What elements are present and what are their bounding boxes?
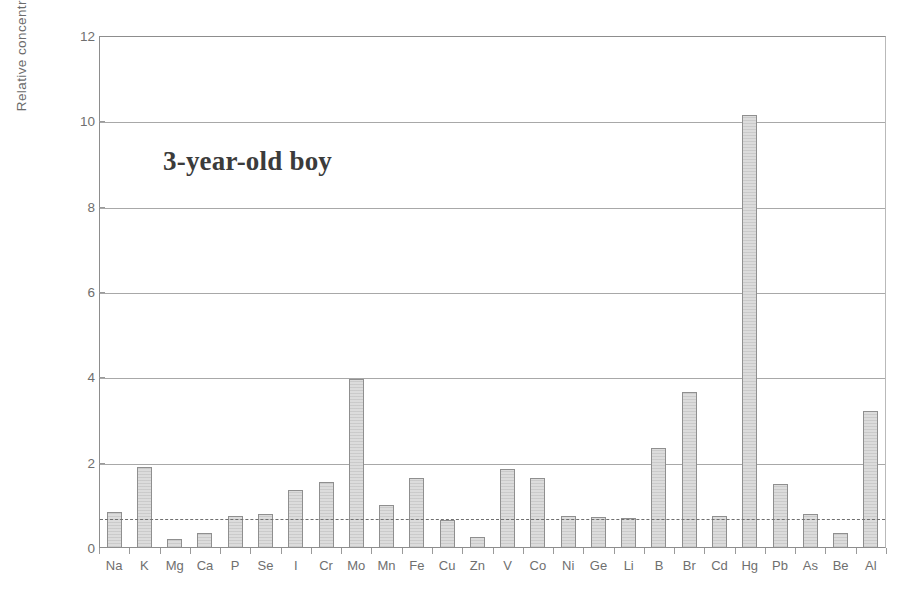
y-axis-tick-labels: 024681012 bbox=[55, 36, 95, 548]
x-tick-label-ca: Ca bbox=[197, 558, 214, 573]
x-tick-label-mn: Mn bbox=[378, 558, 396, 573]
x-tick-label-zn: Zn bbox=[470, 558, 485, 573]
bar-mo bbox=[349, 379, 364, 548]
x-tick-label-ge: Ge bbox=[590, 558, 607, 573]
x-tick-mark-6 bbox=[281, 548, 282, 554]
x-tick-label-cr: Cr bbox=[319, 558, 333, 573]
bar-mg bbox=[167, 539, 182, 548]
x-tick-mark-1 bbox=[129, 548, 130, 554]
bar-li bbox=[621, 518, 636, 548]
x-tick-label-co: Co bbox=[530, 558, 547, 573]
y-tick-label-8: 8 bbox=[61, 199, 95, 214]
y-tick-label-2: 2 bbox=[61, 455, 95, 470]
bar-cr bbox=[319, 482, 334, 548]
y-tick-mark-8 bbox=[99, 207, 105, 208]
x-tick-label-hg: Hg bbox=[741, 558, 758, 573]
bar-series bbox=[99, 36, 886, 548]
chart-annotation: 3-year-old boy bbox=[163, 146, 332, 177]
x-tick-mark-19 bbox=[674, 548, 675, 554]
x-tick-mark-26 bbox=[886, 548, 887, 554]
x-tick-mark-25 bbox=[856, 548, 857, 554]
x-tick-label-na: Na bbox=[106, 558, 123, 573]
x-tick-label-k: K bbox=[140, 558, 149, 573]
x-tick-label-i: I bbox=[294, 558, 298, 573]
y-tick-label-6: 6 bbox=[61, 285, 95, 300]
x-tick-label-as: As bbox=[803, 558, 818, 573]
bar-p bbox=[228, 516, 243, 548]
x-tick-label-cu: Cu bbox=[439, 558, 456, 573]
x-tick-mark-0 bbox=[99, 548, 100, 554]
bar-hg bbox=[742, 115, 757, 548]
chart-figure: Relative concentration 024681012 NaKMgCa… bbox=[0, 0, 919, 605]
bar-ni bbox=[561, 516, 576, 548]
x-tick-mark-3 bbox=[190, 548, 191, 554]
x-tick-mark-8 bbox=[341, 548, 342, 554]
x-tick-mark-16 bbox=[583, 548, 584, 554]
bar-zn bbox=[470, 537, 485, 548]
y-tick-mark-6 bbox=[99, 292, 105, 293]
bar-b bbox=[651, 448, 666, 548]
y-tick-mark-2 bbox=[99, 463, 105, 464]
bar-ge bbox=[591, 517, 606, 548]
y-tick-mark-10 bbox=[99, 121, 105, 122]
x-tick-mark-15 bbox=[553, 548, 554, 554]
x-tick-mark-7 bbox=[311, 548, 312, 554]
x-tick-mark-18 bbox=[644, 548, 645, 554]
x-tick-label-cd: Cd bbox=[711, 558, 728, 573]
x-tick-label-se: Se bbox=[258, 558, 274, 573]
x-tick-mark-14 bbox=[523, 548, 524, 554]
x-tick-mark-13 bbox=[493, 548, 494, 554]
bar-cd bbox=[712, 516, 727, 548]
x-tick-mark-9 bbox=[371, 548, 372, 554]
x-tick-label-mg: Mg bbox=[166, 558, 184, 573]
y-tick-label-12: 12 bbox=[61, 29, 95, 44]
bar-mn bbox=[379, 505, 394, 548]
bar-be bbox=[833, 533, 848, 548]
x-tick-mark-10 bbox=[402, 548, 403, 554]
x-tick-mark-21 bbox=[735, 548, 736, 554]
x-tick-label-al: Al bbox=[865, 558, 877, 573]
y-axis-label: Relative concentration bbox=[14, 0, 29, 170]
bar-al bbox=[863, 411, 878, 548]
bar-pb bbox=[773, 484, 788, 548]
x-tick-label-br: Br bbox=[683, 558, 696, 573]
x-tick-mark-23 bbox=[795, 548, 796, 554]
x-tick-mark-22 bbox=[765, 548, 766, 554]
y-tick-label-0: 0 bbox=[61, 541, 95, 556]
bar-br bbox=[682, 392, 697, 548]
bar-k bbox=[137, 467, 152, 548]
y-tick-label-10: 10 bbox=[61, 114, 95, 129]
x-tick-mark-24 bbox=[825, 548, 826, 554]
bar-v bbox=[500, 469, 515, 548]
bar-na bbox=[107, 512, 122, 548]
x-tick-label-fe: Fe bbox=[409, 558, 424, 573]
x-tick-label-be: Be bbox=[833, 558, 849, 573]
bar-co bbox=[530, 478, 545, 548]
x-tick-label-mo: Mo bbox=[347, 558, 365, 573]
x-tick-label-pb: Pb bbox=[772, 558, 788, 573]
x-tick-mark-17 bbox=[614, 548, 615, 554]
y-tick-label-4: 4 bbox=[61, 370, 95, 385]
x-tick-label-ni: Ni bbox=[562, 558, 574, 573]
x-tick-label-p: P bbox=[231, 558, 240, 573]
x-tick-label-v: V bbox=[503, 558, 512, 573]
x-tick-mark-12 bbox=[462, 548, 463, 554]
x-tick-mark-5 bbox=[250, 548, 251, 554]
bar-fe bbox=[409, 478, 424, 548]
y-tick-mark-4 bbox=[99, 377, 105, 378]
x-tick-label-b: B bbox=[655, 558, 664, 573]
bar-cu bbox=[440, 520, 455, 548]
x-tick-mark-11 bbox=[432, 548, 433, 554]
x-tick-mark-2 bbox=[160, 548, 161, 554]
bar-ca bbox=[197, 533, 212, 548]
x-tick-mark-4 bbox=[220, 548, 221, 554]
x-tick-mark-20 bbox=[704, 548, 705, 554]
x-tick-label-li: Li bbox=[624, 558, 634, 573]
reference-line bbox=[100, 519, 885, 520]
